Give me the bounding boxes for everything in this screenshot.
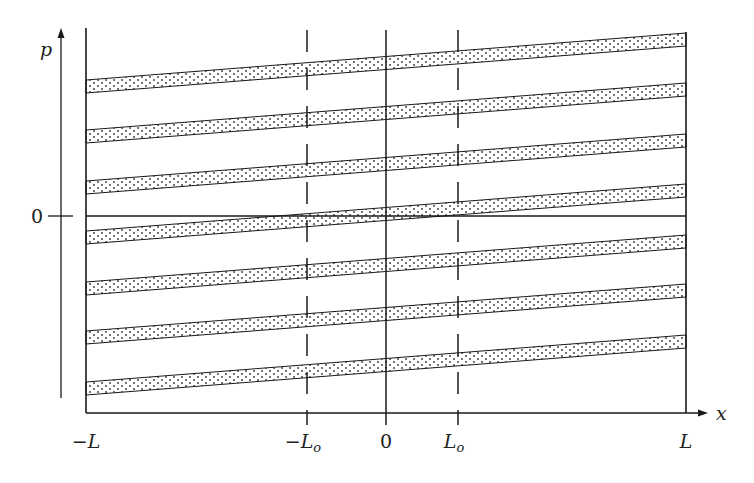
x-tick-label-2: 0 xyxy=(380,430,392,452)
x-tick-label-0: −L xyxy=(72,430,101,452)
x-tick-label-4: L xyxy=(679,430,693,452)
x-axis-arrow-icon xyxy=(698,410,708,417)
x-tick-label-1: −Lo xyxy=(285,430,322,455)
phase-space-diagram: p 0 x −L−Lo0LoL xyxy=(0,0,754,483)
x-axis-label: x xyxy=(716,402,727,424)
p-zero-label: 0 xyxy=(31,205,43,227)
x-tick-labels: −L−Lo0LoL xyxy=(72,430,693,455)
p-axis-label: p xyxy=(40,38,52,60)
x-tick-label-3: Lo xyxy=(443,430,465,455)
p-axis-arrow-icon xyxy=(58,28,65,38)
